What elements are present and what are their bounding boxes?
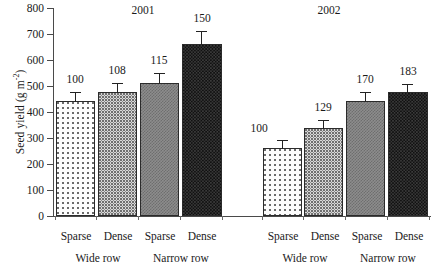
y-axis-line [53, 8, 54, 217]
bar-label-2002-wide-sparse: 100 [236, 123, 282, 135]
y-tick-label-500: 500 [4, 81, 44, 93]
y-axis-title-paren: ) [14, 70, 26, 74]
y-tick-200 [47, 164, 53, 165]
bar-2001-wide-dense [98, 92, 137, 216]
errorbar-2001-wide-dense [117, 83, 118, 93]
errorbar-cap-2001-narrow-sparse [154, 73, 165, 74]
x-tick-7 [345, 216, 346, 220]
errorbar-cap-2002-wide-sparse [277, 140, 288, 141]
errorbar-cap-2001-wide-sparse [70, 92, 81, 93]
bar-2002-narrow-sparse [346, 101, 385, 216]
bar-2002-narrow-dense [388, 92, 428, 216]
x-tick-4 [222, 216, 223, 220]
group-label-2001-wide: Wide row [50, 253, 146, 265]
y-tick-100 [47, 190, 53, 191]
errorbar-cap-2001-wide-dense [112, 83, 123, 84]
bar-label-2001-wide-dense: 108 [94, 65, 140, 77]
errorbar-cap-2002-wide-dense [318, 120, 329, 121]
errorbar-2001-narrow-sparse [159, 73, 160, 84]
y-tick-400 [47, 112, 53, 113]
y-tick-label-600: 600 [4, 55, 44, 67]
plot-area: Seed yield (g m-2) 800 700 600 500 400 3… [0, 0, 433, 280]
x-tick-8 [387, 216, 388, 220]
bar-2001-narrow-dense [182, 44, 222, 216]
y-tick-300 [47, 138, 53, 139]
y-tick-0 [47, 216, 53, 217]
x-tick-5 [262, 216, 263, 220]
errorbar-2002-narrow-dense [407, 84, 408, 93]
bar-2001-wide-sparse [56, 101, 95, 216]
panel-title-2001: 2001 [108, 5, 178, 17]
y-tick-label-200: 200 [4, 159, 44, 171]
bar-label-2002-narrow-dense: 183 [385, 66, 431, 78]
bar-2002-wide-dense [304, 128, 343, 216]
y-tick-label-100: 100 [4, 185, 44, 197]
y-tick-label-700: 700 [4, 29, 44, 41]
bar-label-2001-narrow-dense: 150 [179, 13, 225, 25]
x-tick-9 [429, 216, 430, 220]
bar-2002-wide-sparse [263, 148, 302, 216]
group-label-2002-narrow: Narrow row [340, 253, 433, 265]
bar-2001-narrow-sparse [140, 83, 179, 216]
bar-label-2001-wide-sparse: 100 [52, 74, 98, 86]
errorbar-2002-wide-dense [323, 120, 324, 129]
y-tick-700 [47, 34, 53, 35]
errorbar-2001-narrow-dense [201, 31, 202, 45]
y-tick-800 [47, 8, 53, 9]
x-tick-6 [303, 216, 304, 220]
y-tick-label-400: 400 [4, 107, 44, 119]
y-tick-label-300: 300 [4, 133, 44, 145]
errorbar-cap-2002-narrow-sparse [360, 92, 371, 93]
x-label-2001-narrow-dense: Dense [174, 231, 230, 243]
x-axis-line [53, 216, 431, 217]
x-tick-1 [96, 216, 97, 220]
bar-label-2002-wide-dense: 129 [300, 102, 346, 114]
y-tick-600 [47, 60, 53, 61]
x-tick-0 [55, 216, 56, 220]
y-tick-label-0: 0 [4, 211, 44, 223]
panel-title-2002: 2002 [294, 5, 364, 17]
errorbar-2002-wide-sparse [282, 140, 283, 149]
group-label-2002-wide: Wide row [257, 253, 353, 265]
x-label-2002-narrow-dense: Dense [381, 231, 433, 243]
y-tick-500 [47, 86, 53, 87]
group-label-2001-narrow: Narrow row [133, 253, 229, 265]
x-tick-3 [180, 216, 181, 220]
seed-yield-bar-chart: Seed yield (g m-2) 800 700 600 500 400 3… [0, 0, 433, 280]
errorbar-2002-narrow-sparse [365, 92, 366, 102]
x-tick-2 [138, 216, 139, 220]
errorbar-cap-2002-narrow-dense [402, 84, 413, 85]
errorbar-2001-wide-sparse [75, 92, 76, 102]
y-axis-title-exponent: -2 [12, 73, 21, 80]
errorbar-cap-2001-narrow-dense [196, 31, 207, 32]
bar-label-2001-narrow-sparse: 115 [136, 55, 182, 67]
y-tick-label-800: 800 [4, 3, 44, 15]
bar-label-2002-narrow-sparse: 170 [342, 74, 388, 86]
